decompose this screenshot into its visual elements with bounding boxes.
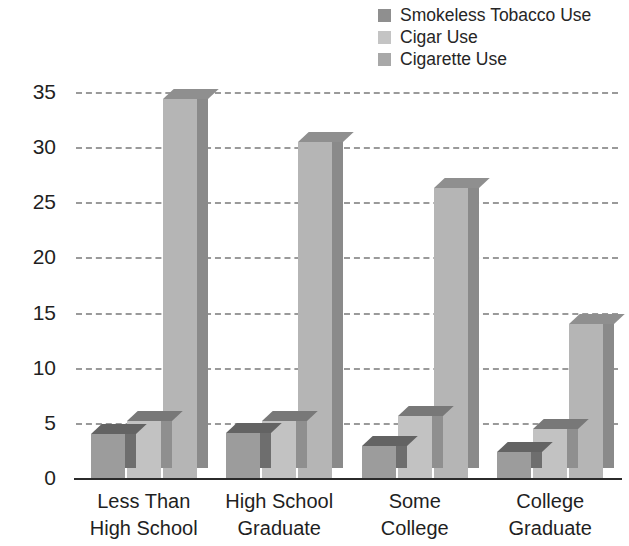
bar-front-face bbox=[362, 446, 396, 478]
bar-group bbox=[497, 92, 603, 478]
bar-side-face bbox=[332, 132, 343, 468]
x-axis-label: High SchoolGraduate bbox=[212, 488, 348, 542]
legend-label-smokeless-tobacco-use: Smokeless Tobacco Use bbox=[400, 5, 591, 25]
bar-top-face bbox=[434, 178, 490, 188]
bar-group bbox=[362, 92, 468, 478]
legend-item-smokeless-tobacco-use: Smokeless Tobacco Use bbox=[378, 4, 628, 26]
bar-group bbox=[91, 92, 197, 478]
x-axis-label-line: Graduate bbox=[483, 515, 619, 542]
x-axis-line bbox=[74, 478, 622, 480]
bar-smokeless-tobacco-use[interactable] bbox=[226, 433, 260, 478]
x-axis-label-line: College bbox=[347, 515, 483, 542]
legend-label-cigar-use: Cigar Use bbox=[400, 27, 478, 47]
x-axis-label-line: Graduate bbox=[212, 515, 348, 542]
y-tick-label-35: 35 bbox=[0, 81, 56, 102]
legend-swatch-smokeless-tobacco-use bbox=[378, 9, 391, 22]
legend-label-cigarette-use: Cigarette Use bbox=[400, 49, 507, 69]
bar-top-face bbox=[569, 314, 625, 324]
x-axis-label-line: High School bbox=[76, 515, 212, 542]
legend-swatch-cigarette-use bbox=[378, 53, 391, 66]
bar-side-face bbox=[197, 89, 208, 468]
x-axis-label: Less ThanHigh School bbox=[76, 488, 212, 542]
bar-front-face bbox=[91, 434, 125, 478]
y-tick-label-15: 15 bbox=[0, 302, 56, 323]
bar-side-face bbox=[603, 314, 614, 468]
legend-item-cigar-use: Cigar Use bbox=[378, 26, 628, 48]
legend-item-cigarette-use: Cigarette Use bbox=[378, 48, 628, 70]
bar-chart: Smokeless Tobacco Use Cigar Use Cigarett… bbox=[0, 0, 629, 546]
x-axis-label-line: Some bbox=[347, 488, 483, 515]
bar-smokeless-tobacco-use[interactable] bbox=[497, 452, 531, 478]
y-tick-label-10: 10 bbox=[0, 357, 56, 378]
y-tick-label-5: 5 bbox=[0, 412, 56, 433]
y-tick-label-30: 30 bbox=[0, 136, 56, 157]
y-tick-label-20: 20 bbox=[0, 246, 56, 267]
x-axis-label: CollegeGraduate bbox=[483, 488, 619, 542]
x-axis-labels: Less ThanHigh SchoolHigh SchoolGraduateS… bbox=[76, 488, 618, 546]
x-axis-label-line: High School bbox=[212, 488, 348, 515]
chart-legend: Smokeless Tobacco Use Cigar Use Cigarett… bbox=[378, 4, 628, 70]
bar-front-face bbox=[226, 433, 260, 478]
x-axis-label-line: College bbox=[483, 488, 619, 515]
bar-side-face bbox=[468, 178, 479, 468]
x-axis-label-line: Less Than bbox=[76, 488, 212, 515]
x-axis-label: SomeCollege bbox=[347, 488, 483, 542]
bar-front-face bbox=[497, 452, 531, 478]
plot-area: 05101520253035 bbox=[76, 92, 618, 478]
y-tick-label-25: 25 bbox=[0, 191, 56, 212]
y-tick-label-0: 0 bbox=[0, 467, 56, 488]
bar-smokeless-tobacco-use[interactable] bbox=[362, 446, 396, 478]
legend-swatch-cigar-use bbox=[378, 31, 391, 44]
bar-group bbox=[226, 92, 332, 478]
bar-top-face bbox=[163, 89, 219, 99]
bar-smokeless-tobacco-use[interactable] bbox=[91, 434, 125, 478]
bar-top-face bbox=[298, 132, 354, 142]
